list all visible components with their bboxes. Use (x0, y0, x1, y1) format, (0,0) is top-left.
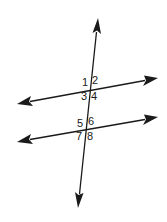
arrow-up-icon (93, 18, 102, 34)
arrow-right-icon (143, 76, 158, 87)
transversal-diagram (0, 0, 167, 222)
angle-label-2: 2 (92, 75, 98, 86)
angle-label-4: 4 (91, 91, 97, 102)
arrow-right-icon (143, 115, 158, 126)
angle-label-6: 6 (88, 116, 94, 127)
transversal (75, 18, 101, 208)
angle-label-7: 7 (76, 131, 82, 142)
angle-label-1: 1 (82, 77, 88, 88)
angle-label-3: 3 (81, 91, 87, 102)
angle-label-5: 5 (77, 118, 83, 129)
angle-label-8: 8 (87, 131, 93, 142)
arrow-down-icon (75, 192, 84, 208)
